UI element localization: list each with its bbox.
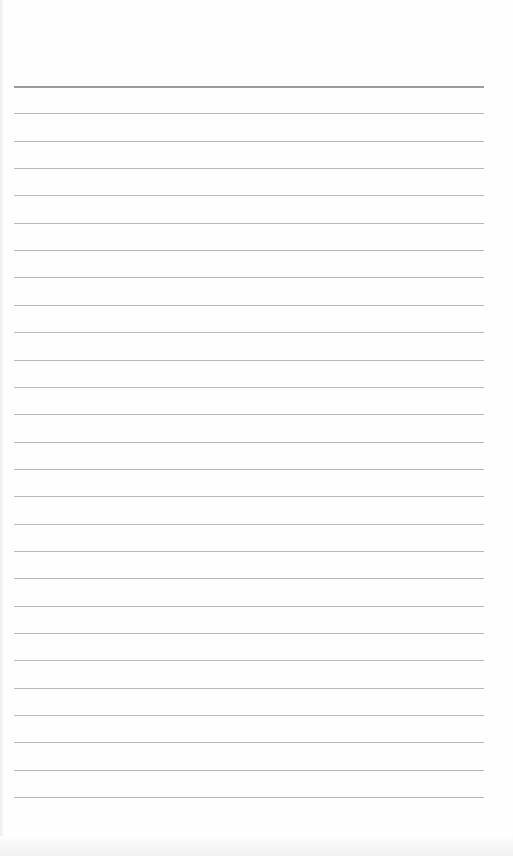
ruled-line [14,688,484,689]
ruled-line [14,277,484,278]
ruled-line [14,195,484,196]
ruled-line [14,633,484,634]
ruled-line [14,387,484,388]
ruled-line [14,360,484,361]
ruled-line [14,442,484,443]
ruled-line [14,797,484,798]
ruled-line [14,742,484,743]
page-edge-shadow [0,0,4,856]
ruled-line [14,414,484,415]
ruled-line [14,469,484,470]
ruled-line [14,141,484,142]
lined-paper-page [0,0,513,856]
ruled-line [14,524,484,525]
ruled-line [14,168,484,169]
ruled-line [14,578,484,579]
ruled-line [14,715,484,716]
ruled-line [14,660,484,661]
ruled-line [14,332,484,333]
ruled-line [14,496,484,497]
ruled-line [14,551,484,552]
ruled-line [14,223,484,224]
page-bottom-shadow [0,836,513,856]
ruled-line [14,606,484,607]
ruled-line [14,250,484,251]
ruled-line [14,770,484,771]
ruled-line [14,86,484,88]
ruled-line [14,113,484,114]
ruled-line [14,305,484,306]
